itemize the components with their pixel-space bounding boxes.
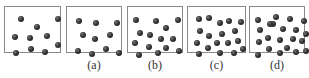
particle-dot [132,40,138,46]
particle-dot [133,17,139,23]
particle-dot [273,14,279,20]
particle-dot [284,45,290,51]
particle-dot [303,31,309,37]
particle-dot [266,46,272,52]
particle-dot [163,45,169,51]
particle-dot [217,20,223,26]
particle-dot [196,16,202,22]
particle-dot [240,46,246,52]
panel-label-a: (a) [87,58,100,73]
particle-dot [257,27,263,33]
particle-dot [176,48,182,54]
particle-dot [206,15,212,21]
particle-dot [265,35,271,41]
particle-dot [197,28,203,34]
particle-dot [301,18,307,24]
particle-dot [196,51,202,57]
particle-dot [267,21,273,27]
particle-dot [107,32,113,38]
particle-dot [217,50,223,56]
particle-dot [136,52,142,58]
particle-dot [303,48,309,54]
particle-dot [13,50,19,56]
panel-b [127,6,183,53]
particle-dot [280,26,286,32]
particle-dot [153,18,159,24]
particle-dot [92,36,98,42]
particle-dot [155,50,161,56]
particle-dot [225,40,231,46]
particle-dot [290,36,296,42]
particle-dot [137,30,143,36]
particle-dot [287,16,293,22]
particle-dot [116,50,122,56]
particle-dot [255,52,261,58]
particle-dot [170,36,176,42]
particle-dot [235,38,241,44]
particle-dot [34,24,40,30]
particle-dot [277,50,283,56]
particle-dot [277,37,283,43]
particle-dot [206,33,212,39]
particle-dot [205,45,211,51]
particle-dot [163,25,169,31]
particle-dot [75,48,81,54]
particle-dot [232,28,238,34]
particle-dot [231,50,237,56]
particle-dot [42,49,48,55]
particle-dot [255,17,261,23]
particle-dot [299,38,305,44]
particle-dot [18,16,24,22]
particle-dot [12,34,18,40]
particle-dot [219,31,225,37]
particle-dot [55,16,61,22]
particle-dot [194,40,200,46]
particle-dot [76,18,82,24]
panel-reference [4,6,61,53]
particle-dot [28,46,34,52]
particle-dot [93,20,99,26]
panel-d [249,6,305,53]
panel-label-d: (d) [270,58,284,73]
panel-label-c: (c) [210,58,223,73]
particle-dot [158,36,164,42]
particle-dot [146,44,152,50]
particle-dot [147,32,153,38]
particle-dot [27,35,33,41]
particle-dot [103,46,109,52]
particle-dot [175,17,181,23]
particle-dot [114,20,120,26]
particle-dot [256,39,262,45]
panel-a [66,6,122,53]
particle-dot [293,49,299,55]
particle-dot [44,33,50,39]
particle-dot [238,19,244,25]
particle-dot [89,51,95,57]
particle-dot [80,32,86,38]
particle-dot [293,27,299,33]
panel-c [187,6,246,53]
particle-dot [55,42,61,48]
particle-dot [226,18,232,24]
panel-label-b: (b) [148,58,162,73]
particle-dot [214,40,220,46]
